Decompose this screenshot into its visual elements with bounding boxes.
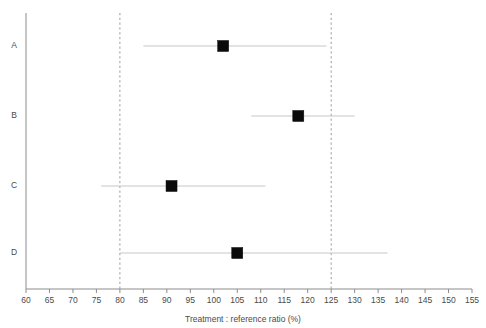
x-tick-label-75: 75 (92, 295, 102, 305)
category-labels-group: ABCD (11, 40, 17, 257)
category-label-d: D (11, 247, 17, 257)
x-tick-label-90: 90 (162, 295, 172, 305)
x-tick-label-70: 70 (68, 295, 78, 305)
category-label-c: C (11, 180, 17, 190)
x-tick-label-120: 120 (301, 295, 315, 305)
x-tick-label-115: 115 (277, 295, 291, 305)
x-tick-label-155: 155 (465, 295, 479, 305)
x-tick-label-65: 65 (45, 295, 55, 305)
category-label-a: A (11, 40, 17, 50)
x-tick-label-145: 145 (418, 295, 432, 305)
forest-plot-chart: 6065707580859095100105110115120125130135… (0, 0, 486, 328)
confidence-interval-group (101, 46, 387, 253)
x-tick-label-140: 140 (394, 295, 408, 305)
point-marker-b (293, 111, 304, 122)
point-marker-a (218, 41, 229, 52)
x-tick-label-110: 110 (254, 295, 268, 305)
x-tick-label-80: 80 (115, 295, 125, 305)
x-axis-title: Treatment : reference ratio (%) (185, 314, 301, 324)
x-tick-label-60: 60 (21, 295, 31, 305)
x-tick-label-135: 135 (371, 295, 385, 305)
category-label-b: B (11, 110, 17, 120)
x-tick-label-95: 95 (186, 295, 196, 305)
x-tick-label-130: 130 (348, 295, 362, 305)
reference-lines-group (120, 13, 331, 289)
axes-group (26, 13, 472, 289)
x-tick-label-125: 125 (324, 295, 338, 305)
x-tick-label-85: 85 (139, 295, 149, 305)
point-marker-d (232, 248, 243, 259)
x-tick-label-100: 100 (207, 295, 221, 305)
x-tick-label-150: 150 (441, 295, 455, 305)
point-markers-group (166, 41, 304, 259)
x-tick-label-105: 105 (230, 295, 244, 305)
plot-canvas: 6065707580859095100105110115120125130135… (0, 0, 486, 328)
point-marker-c (166, 181, 177, 192)
x-axis-ticks-group: 6065707580859095100105110115120125130135… (21, 289, 479, 305)
